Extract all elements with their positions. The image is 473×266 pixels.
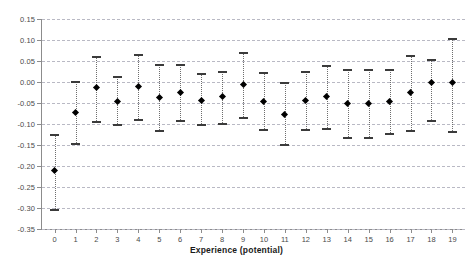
y-axis-tick-label: -0.35 (17, 225, 35, 234)
x-axis-tick-label: 16 (385, 235, 393, 244)
error-bar-lower-cap (239, 117, 248, 119)
y-axis-tick-label: -0.05 (17, 99, 35, 108)
y-gridline (42, 40, 465, 41)
error-bar-upper-cap (92, 56, 101, 58)
x-axis-tick (117, 229, 118, 233)
y-axis-tick-label: 0.05 (20, 57, 35, 66)
x-axis-tick-label: 19 (448, 235, 456, 244)
y-axis-tick (37, 40, 42, 41)
x-axis-tick (138, 229, 139, 233)
x-axis-tick (327, 229, 328, 233)
error-bar-lower-cap (176, 120, 185, 122)
y-gridline (42, 82, 465, 83)
error-bar-lower-cap (343, 137, 352, 139)
data-point-marker (344, 100, 351, 107)
y-gridline (42, 61, 465, 62)
x-axis-tick (159, 229, 160, 233)
coefficient-plot-chart: 0.150.100.050.00-0.05-0.10-0.15-0.20-0.2… (0, 0, 473, 266)
y-gridline (42, 187, 465, 188)
x-axis-tick (243, 229, 244, 233)
y-gridline (42, 103, 465, 104)
x-axis-tick-label: 4 (136, 235, 140, 244)
data-point-marker (51, 167, 58, 174)
plot-area: 0.150.100.050.00-0.05-0.10-0.15-0.20-0.2… (41, 19, 465, 230)
error-bar-upper-cap (448, 38, 457, 40)
y-axis-tick (37, 166, 42, 167)
x-axis-tick-label: 1 (73, 235, 77, 244)
data-point-marker (407, 89, 414, 96)
y-gridline (42, 208, 465, 209)
x-axis-tick-label: 0 (52, 235, 56, 244)
data-point-marker (449, 78, 456, 85)
error-bar-lower-cap (71, 143, 80, 145)
error-bar-upper-cap (176, 64, 185, 66)
error-bar-upper-cap (259, 72, 268, 74)
data-point-marker (386, 98, 393, 105)
error-bar-upper-cap (50, 134, 59, 136)
x-axis-tick (431, 229, 432, 233)
x-axis-tick (201, 229, 202, 233)
x-axis-tick-label: 2 (94, 235, 98, 244)
data-point-marker (135, 83, 142, 90)
error-bar-upper-cap (301, 71, 310, 73)
y-axis-tick (37, 61, 42, 62)
error-bar-lower-cap (364, 137, 373, 139)
error-bar-upper-cap (155, 64, 164, 66)
y-gridline (42, 166, 465, 167)
x-axis-tick (55, 229, 56, 233)
x-axis-tick (76, 229, 77, 233)
y-axis-tick-label: -0.15 (17, 141, 35, 150)
error-bar-lower-cap (50, 209, 59, 211)
error-bar-lower-cap (448, 131, 457, 133)
x-axis-tick-label: 12 (302, 235, 310, 244)
data-point-marker (281, 111, 288, 118)
y-axis-tick-label: -0.30 (17, 204, 35, 213)
data-point-marker (260, 98, 267, 105)
y-axis-tick (37, 124, 42, 125)
error-bar-upper-cap (71, 81, 80, 83)
y-axis-tick-label: -0.25 (17, 183, 35, 192)
error-bar-lower-cap (92, 121, 101, 123)
error-bar (431, 59, 432, 119)
x-axis-tick-label: 15 (365, 235, 373, 244)
x-axis-tick-label: 7 (199, 235, 203, 244)
y-gridline (42, 124, 465, 125)
error-bar-lower-cap (301, 129, 310, 131)
error-bar-lower-cap (406, 130, 415, 132)
error-bar-upper-cap (280, 82, 289, 84)
x-axis-title: Experience (potential) (0, 245, 473, 255)
error-bar-lower-cap (322, 128, 331, 130)
error-bar-lower-cap (280, 144, 289, 146)
error-bar-upper-cap (427, 59, 436, 61)
x-axis-tick (306, 229, 307, 233)
x-axis-tick (180, 229, 181, 233)
error-bar-lower-cap (197, 124, 206, 126)
x-axis-tick (222, 229, 223, 233)
data-point-marker (219, 93, 226, 100)
y-axis-tick (37, 19, 42, 20)
x-axis-tick (411, 229, 412, 233)
y-gridline (42, 19, 465, 20)
x-axis-tick-label: 11 (281, 235, 289, 244)
error-bar-upper-cap (239, 52, 248, 54)
x-axis-tick-label: 9 (241, 235, 245, 244)
x-axis-tick (264, 229, 265, 233)
data-point-marker (72, 109, 79, 116)
data-point-marker (323, 93, 330, 100)
x-axis-tick-label: 5 (157, 235, 161, 244)
x-axis-tick (390, 229, 391, 233)
y-axis-tick (37, 187, 42, 188)
x-axis-tick (452, 229, 453, 233)
y-axis-tick (37, 208, 42, 209)
error-bar-lower-cap (218, 123, 227, 125)
data-point-marker (177, 89, 184, 96)
x-axis-tick-label: 8 (220, 235, 224, 244)
x-axis-tick-label: 6 (178, 235, 182, 244)
x-axis-tick-label: 18 (427, 235, 435, 244)
error-bar-upper-cap (322, 65, 331, 67)
error-bar-upper-cap (218, 71, 227, 73)
error-bar-lower-cap (427, 120, 436, 122)
y-axis-tick (37, 103, 42, 104)
data-point-marker (428, 79, 435, 86)
error-bar-lower-cap (385, 133, 394, 135)
